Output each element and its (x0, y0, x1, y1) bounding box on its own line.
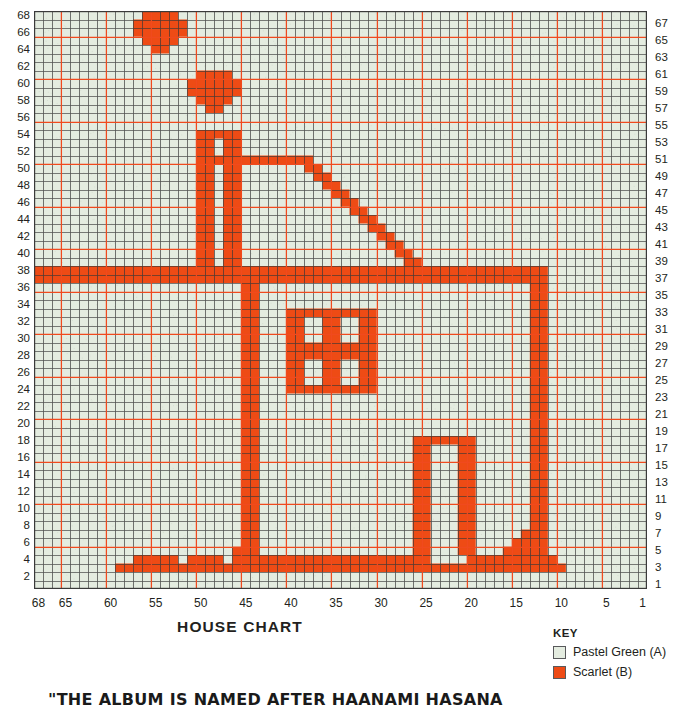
y-tick-right-29: 29 (655, 340, 683, 352)
y-tick-right-51: 51 (655, 153, 683, 165)
x-tick-65: 65 (51, 596, 81, 610)
y-tick-left-44: 44 (2, 213, 30, 225)
y-tick-left-16: 16 (2, 451, 30, 463)
y-tick-left-58: 58 (2, 94, 30, 106)
y-tick-right-37: 37 (655, 272, 683, 284)
caption-quote: "THE ALBUM IS NAMED AFTER HAANAMI HASANA (48, 690, 518, 708)
y-tick-right-1: 1 (655, 578, 683, 590)
y-tick-right-33: 33 (655, 306, 683, 318)
y-tick-left-42: 42 (2, 230, 30, 242)
y-tick-right-35: 35 (655, 289, 683, 301)
y-tick-right-47: 47 (655, 187, 683, 199)
y-tick-right-45: 45 (655, 204, 683, 216)
y-tick-right-39: 39 (655, 255, 683, 267)
y-tick-left-8: 8 (2, 519, 30, 531)
chart-area: 6866646260585654525048464442403836343230… (0, 0, 697, 600)
x-tick-60: 60 (96, 596, 126, 610)
y-tick-left-46: 46 (2, 196, 30, 208)
key-heading: KEY (553, 627, 697, 639)
y-tick-right-67: 67 (655, 17, 683, 29)
y-tick-right-9: 9 (655, 510, 683, 522)
y-tick-right-41: 41 (655, 238, 683, 250)
y-tick-right-11: 11 (655, 493, 683, 505)
y-tick-right-13: 13 (655, 476, 683, 488)
y-tick-right-27: 27 (655, 357, 683, 369)
y-tick-left-36: 36 (2, 281, 30, 293)
y-tick-right-63: 63 (655, 51, 683, 63)
y-tick-right-3: 3 (655, 561, 683, 573)
stitch-grid-canvas[interactable] (34, 11, 647, 589)
y-tick-left-10: 10 (2, 502, 30, 514)
key-item-pastel-green: Pastel Green (A) (553, 645, 697, 659)
y-tick-right-49: 49 (655, 170, 683, 182)
key-item-scarlet: Scarlet (B) (553, 665, 697, 679)
y-tick-right-57: 57 (655, 102, 683, 114)
y-tick-left-68: 68 (2, 9, 30, 21)
y-tick-left-24: 24 (2, 383, 30, 395)
y-tick-left-56: 56 (2, 111, 30, 123)
x-tick-5: 5 (591, 596, 621, 610)
y-tick-right-59: 59 (655, 85, 683, 97)
y-tick-left-2: 2 (2, 570, 30, 582)
x-tick-40: 40 (276, 596, 306, 610)
y-tick-left-34: 34 (2, 298, 30, 310)
x-tick-15: 15 (501, 596, 531, 610)
y-tick-right-43: 43 (655, 221, 683, 233)
key-label-scarlet: Scarlet (B) (573, 665, 632, 679)
y-tick-right-5: 5 (655, 544, 683, 556)
x-tick-45: 45 (231, 596, 261, 610)
y-tick-left-62: 62 (2, 60, 30, 72)
y-tick-right-23: 23 (655, 391, 683, 403)
y-tick-right-61: 61 (655, 68, 683, 80)
y-tick-right-65: 65 (655, 34, 683, 46)
x-tick-20: 20 (456, 596, 486, 610)
y-tick-left-12: 12 (2, 485, 30, 497)
y-tick-left-38: 38 (2, 264, 30, 276)
y-tick-left-64: 64 (2, 43, 30, 55)
key-label-pastel-green: Pastel Green (A) (573, 645, 666, 659)
y-tick-right-55: 55 (655, 119, 683, 131)
y-tick-left-20: 20 (2, 417, 30, 429)
y-tick-left-52: 52 (2, 145, 30, 157)
y-tick-left-40: 40 (2, 247, 30, 259)
chart-title: HOUSE CHART (0, 618, 480, 636)
y-tick-left-22: 22 (2, 400, 30, 412)
x-tick-30: 30 (366, 596, 396, 610)
y-tick-left-4: 4 (2, 553, 30, 565)
x-tick-68: 68 (24, 596, 54, 610)
y-tick-left-14: 14 (2, 468, 30, 480)
house-chart-page: 6866646260585654525048464442403836343230… (0, 0, 697, 708)
y-tick-left-66: 66 (2, 26, 30, 38)
y-tick-left-6: 6 (2, 536, 30, 548)
y-tick-left-48: 48 (2, 179, 30, 191)
swatch-scarlet-icon (553, 666, 566, 679)
x-tick-10: 10 (546, 596, 576, 610)
y-tick-left-28: 28 (2, 349, 30, 361)
y-tick-left-30: 30 (2, 332, 30, 344)
stitch-grid[interactable] (34, 11, 647, 589)
swatch-pastel-green-icon (553, 646, 566, 659)
y-tick-right-31: 31 (655, 323, 683, 335)
y-tick-right-7: 7 (655, 527, 683, 539)
x-tick-1: 1 (627, 596, 657, 610)
x-tick-25: 25 (411, 596, 441, 610)
key-legend: KEY Pastel Green (A) Scarlet (B) (553, 627, 697, 685)
y-tick-right-15: 15 (655, 459, 683, 471)
y-tick-right-19: 19 (655, 425, 683, 437)
x-tick-35: 35 (321, 596, 351, 610)
y-tick-left-18: 18 (2, 434, 30, 446)
y-tick-left-60: 60 (2, 77, 30, 89)
x-tick-50: 50 (186, 596, 216, 610)
x-tick-55: 55 (141, 596, 171, 610)
y-tick-left-54: 54 (2, 128, 30, 140)
y-tick-left-50: 50 (2, 162, 30, 174)
y-tick-right-53: 53 (655, 136, 683, 148)
y-tick-right-21: 21 (655, 408, 683, 420)
y-tick-left-32: 32 (2, 315, 30, 327)
y-tick-right-25: 25 (655, 374, 683, 386)
y-tick-left-26: 26 (2, 366, 30, 378)
y-tick-right-17: 17 (655, 442, 683, 454)
